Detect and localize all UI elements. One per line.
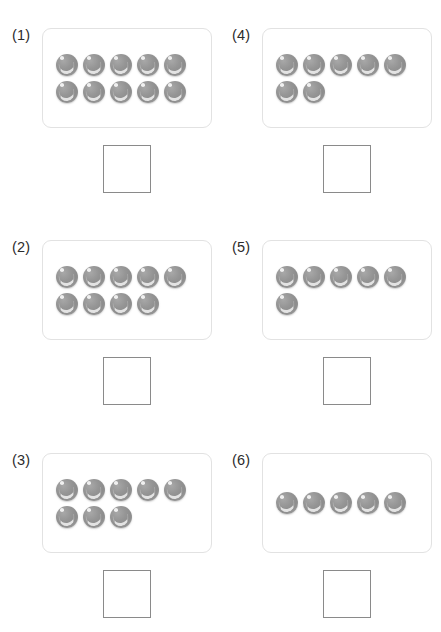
counter-area <box>276 454 423 552</box>
exercise-4: (4) <box>220 18 440 228</box>
counter-shine-icon <box>139 300 156 313</box>
counter-shine-icon <box>85 88 102 101</box>
counter-shine-icon <box>112 61 129 74</box>
counter-token <box>110 81 132 103</box>
answer-box[interactable] <box>323 145 371 193</box>
counter-shine-icon <box>112 88 129 101</box>
counter-token <box>357 266 379 288</box>
counter-shine-icon <box>85 486 102 499</box>
counter-token <box>384 266 406 288</box>
counter-highlight-icon <box>60 83 65 87</box>
counter-token <box>164 54 186 76</box>
counter-shine-icon <box>278 61 295 74</box>
counter-row-top <box>56 54 203 76</box>
counter-token <box>330 54 352 76</box>
counter-shine-icon <box>386 273 403 286</box>
exercise-1: (1) <box>0 18 220 228</box>
exercise-label: (6) <box>232 453 250 468</box>
counter-area <box>276 29 423 127</box>
counter-token <box>110 506 132 528</box>
counter-token <box>276 54 298 76</box>
counter-highlight-icon <box>280 83 285 87</box>
counter-highlight-icon <box>87 295 92 299</box>
counter-highlight-icon <box>388 268 393 272</box>
answer-box[interactable] <box>103 357 151 405</box>
counter-highlight-icon <box>87 56 92 60</box>
counter-token <box>110 54 132 76</box>
counter-highlight-icon <box>307 56 312 60</box>
counter-token <box>384 54 406 76</box>
counter-highlight-icon <box>168 268 173 272</box>
counter-area <box>56 241 203 339</box>
counter-token <box>303 54 325 76</box>
counter-token <box>110 479 132 501</box>
answer-box[interactable] <box>323 357 371 405</box>
answer-box[interactable] <box>323 570 371 618</box>
counter-area <box>56 454 203 552</box>
counter-token <box>56 479 78 501</box>
counter-highlight-icon <box>307 268 312 272</box>
counter-highlight-icon <box>280 295 285 299</box>
counter-shine-icon <box>85 61 102 74</box>
counter-highlight-icon <box>114 481 119 485</box>
counter-shine-icon <box>112 300 129 313</box>
counter-shine-icon <box>166 486 183 499</box>
counter-shine-icon <box>85 513 102 526</box>
counter-token <box>164 266 186 288</box>
counter-token <box>384 492 406 514</box>
counter-shine-icon <box>359 61 376 74</box>
counter-highlight-icon <box>141 56 146 60</box>
counter-token <box>137 54 159 76</box>
counter-token <box>56 266 78 288</box>
counter-token <box>56 506 78 528</box>
counter-shine-icon <box>359 500 376 513</box>
counter-shine-icon <box>58 300 75 313</box>
counter-highlight-icon <box>280 56 285 60</box>
counter-highlight-icon <box>60 56 65 60</box>
counter-token <box>303 81 325 103</box>
counter-token <box>137 479 159 501</box>
exercise-label: (3) <box>12 453 30 468</box>
counter-shine-icon <box>386 500 403 513</box>
counter-token <box>56 293 78 315</box>
exercise-label: (4) <box>232 28 250 43</box>
counter-highlight-icon <box>87 268 92 272</box>
counter-row-bottom <box>276 81 423 103</box>
counter-token <box>137 81 159 103</box>
counter-shine-icon <box>166 273 183 286</box>
counter-token <box>110 266 132 288</box>
counter-token <box>83 293 105 315</box>
counter-token <box>137 266 159 288</box>
counter-row-top <box>276 492 423 514</box>
answer-box[interactable] <box>103 570 151 618</box>
counter-token <box>110 293 132 315</box>
counter-shine-icon <box>359 273 376 286</box>
counter-row-top <box>56 479 203 501</box>
counter-token <box>303 492 325 514</box>
counter-highlight-icon <box>141 83 146 87</box>
counter-token <box>83 479 105 501</box>
counter-highlight-icon <box>307 495 312 499</box>
counter-highlight-icon <box>141 481 146 485</box>
counter-highlight-icon <box>168 56 173 60</box>
counter-token <box>303 266 325 288</box>
counter-shine-icon <box>139 486 156 499</box>
exercise-5: (5) <box>220 230 440 440</box>
counter-shine-icon <box>332 61 349 74</box>
counter-token <box>83 54 105 76</box>
counter-shine-icon <box>139 88 156 101</box>
counter-shine-icon <box>58 61 75 74</box>
counter-highlight-icon <box>280 495 285 499</box>
answer-box[interactable] <box>103 145 151 193</box>
counter-shine-icon <box>58 513 75 526</box>
counter-shine-icon <box>278 300 295 313</box>
counter-token <box>276 293 298 315</box>
counter-shine-icon <box>332 273 349 286</box>
counter-highlight-icon <box>60 268 65 272</box>
counter-shine-icon <box>166 88 183 101</box>
counter-shine-icon <box>112 486 129 499</box>
exercise-label: (1) <box>12 28 30 43</box>
counter-highlight-icon <box>361 268 366 272</box>
counter-highlight-icon <box>334 268 339 272</box>
counter-token <box>164 81 186 103</box>
